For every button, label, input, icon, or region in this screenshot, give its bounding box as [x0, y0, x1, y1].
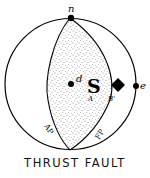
d-label: d	[76, 73, 82, 84]
fault-plane-label: FP	[93, 128, 106, 141]
b-label: B'	[107, 95, 115, 103]
d-point-icon	[68, 81, 74, 87]
north-point-icon	[68, 15, 74, 21]
east-point-icon	[133, 83, 139, 89]
north-label: n	[68, 3, 74, 14]
east-label: e	[140, 80, 146, 91]
auxiliary-plane-label: AP	[42, 121, 56, 135]
stereonet-diagram: n d S A B' e AP FP	[0, 0, 150, 178]
slip-label: S	[87, 75, 101, 97]
diamond-marker-icon	[111, 78, 125, 92]
diagram-title: THRUST FAULT	[0, 156, 150, 170]
a-label: A	[87, 95, 93, 103]
